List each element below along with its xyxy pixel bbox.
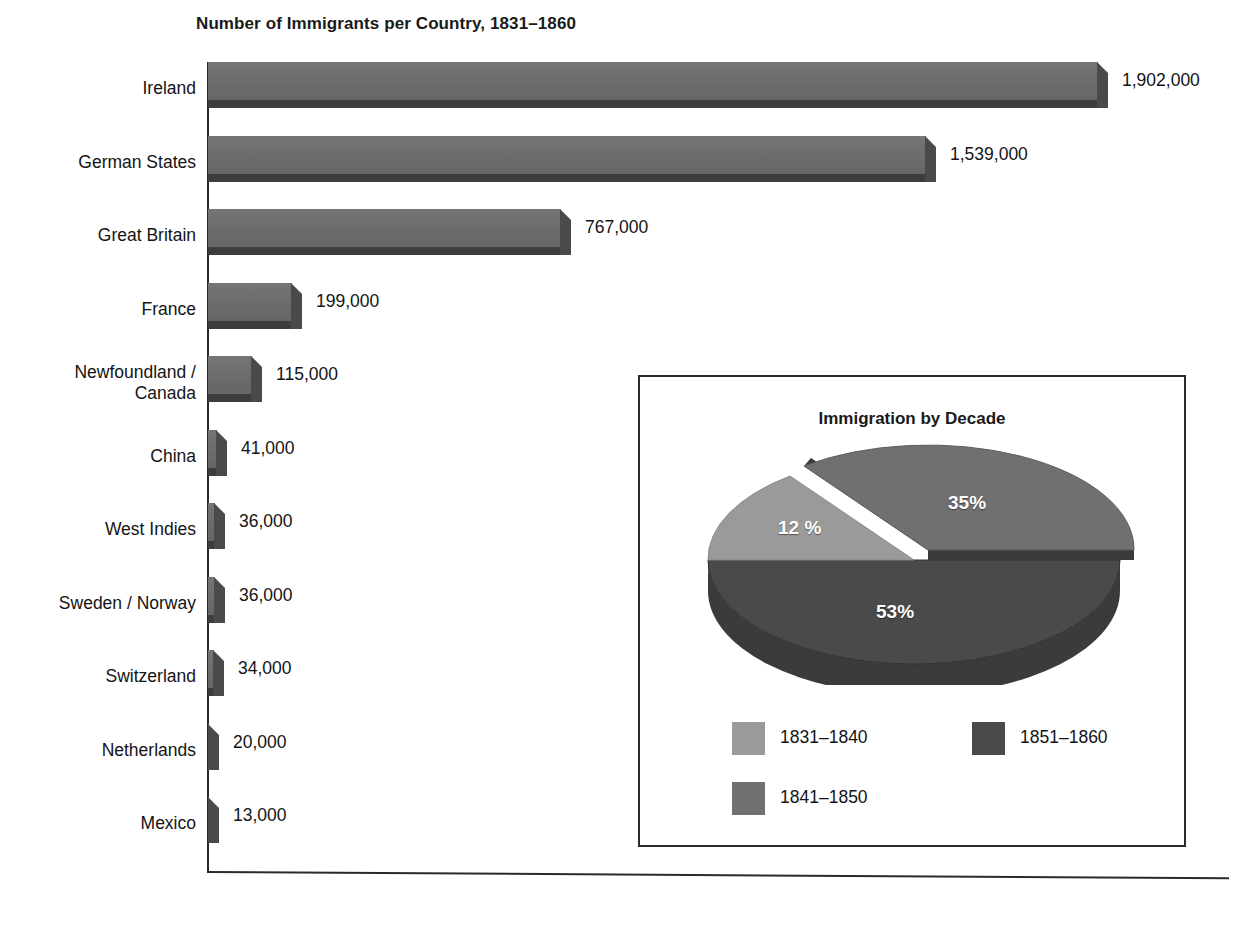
bar-category-label: Newfoundland /Canada: [0, 362, 196, 404]
bar-face: [208, 62, 1098, 100]
bar-category-label: Ireland: [0, 78, 196, 99]
bar-value-label: 34,000: [238, 658, 292, 679]
bar-value-label: 1,539,000: [950, 144, 1028, 165]
bar-chart-title: Number of Immigrants per Country, 1831–1…: [196, 14, 576, 34]
bar-shadow: [208, 615, 215, 623]
bar[interactable]: [208, 503, 225, 549]
bar-category-label: Sweden / Norway: [0, 593, 196, 614]
bar-end-cap: [208, 724, 219, 770]
bar-end-cap: [214, 577, 225, 623]
bar-category-label-line2: Canada: [0, 383, 196, 404]
bar-end-cap: [560, 209, 571, 255]
bar-category-label-line1: France: [0, 299, 196, 320]
legend-swatch: [732, 722, 765, 755]
bar[interactable]: [208, 797, 219, 843]
bar-end-cap: [216, 430, 227, 476]
bar-value-label: 767,000: [585, 217, 648, 238]
bar-face: [208, 577, 215, 615]
bar-value-label: 36,000: [239, 511, 293, 532]
bar-value-label: 199,000: [316, 291, 379, 312]
bar-face: [208, 503, 215, 541]
bar-category-label-line1: Netherlands: [0, 740, 196, 761]
bar[interactable]: [208, 430, 227, 476]
bar-face: [208, 136, 926, 174]
legend-swatch: [732, 782, 765, 815]
bar[interactable]: [208, 283, 302, 329]
bar-face: [208, 356, 252, 394]
bar-category-label: Netherlands: [0, 740, 196, 761]
bar-shadow: [208, 468, 217, 476]
bar-category-label-line1: Ireland: [0, 78, 196, 99]
bar-category-label-line1: China: [0, 446, 196, 467]
pie-chart-panel: Immigration by Decade: [638, 375, 1186, 847]
bar-category-label-line1: West Indies: [0, 519, 196, 540]
bar-value-label: 1,902,000: [1122, 70, 1200, 91]
legend-label: 1831–1840: [780, 727, 868, 748]
bar-end-cap: [213, 650, 224, 696]
bar-face: [208, 283, 292, 321]
bar-value-label: 20,000: [233, 732, 287, 753]
chart-page: Number of Immigrants per Country, 1831–1…: [0, 0, 1235, 927]
bar-shadow: [208, 174, 926, 182]
bar-category-label: German States: [0, 152, 196, 173]
bar-category-label: France: [0, 299, 196, 320]
bar[interactable]: [208, 650, 224, 696]
bar-category-label: Switzerland: [0, 666, 196, 687]
bar[interactable]: [208, 356, 262, 402]
bar[interactable]: [208, 724, 219, 770]
pie-label-1851-1860: 53%: [876, 601, 914, 623]
bar-category-label: China: [0, 446, 196, 467]
bar-category-label-line1: Sweden / Norway: [0, 593, 196, 614]
pie-chart-title: Immigration by Decade: [640, 409, 1184, 429]
x-axis-baseline: [207, 871, 1229, 879]
bar-value-label: 115,000: [276, 364, 338, 385]
bar[interactable]: [208, 577, 225, 623]
bar-face: [208, 209, 561, 247]
bar-face: [208, 430, 217, 468]
legend-label: 1851–1860: [1020, 727, 1108, 748]
bar-shadow: [208, 100, 1098, 108]
bar-category-label-line1: Great Britain: [0, 225, 196, 246]
bar-value-label: 36,000: [239, 585, 293, 606]
bar-shadow: [208, 394, 252, 402]
bar-category-label-line1: Switzerland: [0, 666, 196, 687]
bar-end-cap: [291, 283, 302, 329]
bar-end-cap: [214, 503, 225, 549]
legend-label: 1841–1850: [780, 787, 868, 808]
bar[interactable]: [208, 136, 936, 182]
bar[interactable]: [208, 209, 571, 255]
bar-end-cap: [208, 797, 219, 843]
bar-category-label-line1: German States: [0, 152, 196, 173]
bar-value-label: 41,000: [241, 438, 295, 459]
bar-end-cap: [1097, 62, 1108, 108]
bar-end-cap: [251, 356, 262, 402]
pie-label-1841-1850: 35%: [948, 492, 986, 514]
bar[interactable]: [208, 62, 1108, 108]
bar-shadow: [208, 541, 215, 549]
bar-category-label: West Indies: [0, 519, 196, 540]
bar-end-cap: [925, 136, 936, 182]
bar-category-label: Mexico: [0, 813, 196, 834]
bar-category-label: Great Britain: [0, 225, 196, 246]
bar-value-label: 13,000: [233, 805, 287, 826]
bar-category-label-line1: Newfoundland /: [0, 362, 196, 383]
pie-graphic: 12 % 35% 53%: [686, 439, 1142, 685]
bar-category-label-line1: Mexico: [0, 813, 196, 834]
pie-label-1831-1840: 12 %: [778, 517, 821, 539]
bar-shadow: [208, 247, 561, 255]
legend-swatch: [972, 722, 1005, 755]
bar-shadow: [208, 321, 292, 329]
pie-svg: [686, 439, 1142, 685]
